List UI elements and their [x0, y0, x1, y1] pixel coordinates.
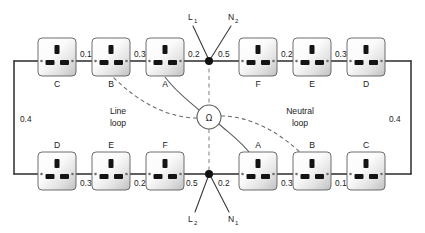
socket-label-top-F: F [255, 79, 260, 89]
diagram-canvas: Ω C B A [0, 0, 425, 233]
socket-bottom-D[interactable]: D [38, 140, 76, 190]
socket-top-F[interactable]: F [239, 38, 277, 89]
resistance-label-top-ED: 0.3 [335, 49, 347, 59]
terminal-label-L1: L 1 [188, 12, 198, 24]
socket-bottom-B[interactable]: B [293, 140, 331, 190]
resistance-label-bottom-BC: 0.1 [335, 178, 347, 188]
neutral-loop-label-row1: Neutral [286, 106, 314, 116]
terminal-L1-sub: 1 [194, 18, 198, 24]
socket-bottom-E[interactable]: E [92, 140, 130, 190]
junction-node-top [205, 57, 213, 65]
junction-node-bottom [205, 170, 213, 178]
socket-label-bottom-E: E [108, 140, 114, 150]
socket-label-bottom-B: B [309, 140, 315, 150]
resistance-label-bottom-AB: 0.3 [281, 178, 293, 188]
socket-label-bottom-C: C [363, 140, 369, 150]
socket-bottom-C[interactable]: C [347, 140, 385, 190]
socket-label-top-D: D [363, 79, 369, 89]
socket-label-top-E: E [309, 79, 315, 89]
resistance-label-bottom-F-node: 0.5 [186, 178, 198, 188]
terminal-label-N2: N 2 [228, 12, 239, 24]
socket-label-top-B: B [108, 79, 114, 89]
line-loop-label-row1: Line [110, 106, 126, 116]
resistance-label-bottom-DE: 0.3 [80, 178, 92, 188]
resistance-label-top-A-node: 0.2 [188, 49, 200, 59]
socket-label-top-A: A [162, 79, 168, 89]
socket-label-bottom-D: D [54, 140, 60, 150]
terminal-label-L2: L 2 [188, 214, 198, 226]
socket-top-D[interactable]: D [347, 38, 385, 89]
socket-top-B[interactable]: B [92, 38, 130, 89]
omega-earth-node: Ω [197, 105, 221, 129]
terminal-N1-sub: 1 [235, 220, 239, 226]
resistance-label-right: 0.4 [389, 114, 401, 124]
terminal-L2-sub: 2 [194, 220, 198, 226]
terminal-N2-base: N [228, 12, 234, 22]
terminal-N1-base: N [228, 214, 234, 224]
terminal-L2-base: L [188, 214, 193, 224]
resistance-label-left: 0.4 [20, 114, 32, 124]
socket-top-A[interactable]: A [146, 38, 184, 89]
line-loop-label-row2: loop [110, 118, 126, 128]
resistance-label-top-FE: 0.2 [281, 49, 293, 59]
resistance-label-bottom-node-A: 0.2 [218, 178, 230, 188]
socket-label-top-C: C [54, 79, 60, 89]
terminal-N2-sub: 2 [235, 18, 239, 24]
socket-top-C[interactable]: C [38, 38, 76, 89]
loop-label-line: Line loop [110, 106, 126, 128]
socket-bottom-F[interactable]: F [146, 140, 184, 190]
loop-label-neutral: Neutral loop [286, 106, 314, 128]
resistance-label-top-BA: 0.3 [134, 49, 146, 59]
neutral-loop-label-row2: loop [292, 118, 308, 128]
socket-label-bottom-F: F [162, 140, 167, 150]
socket-top-E[interactable]: E [293, 38, 331, 89]
omega-symbol-label: Ω [206, 113, 213, 123]
resistance-label-top-node-F: 0.5 [218, 49, 230, 59]
curve-omega-to-top-A [165, 77, 199, 110]
resistance-label-top-CB: 0.1 [80, 49, 92, 59]
terminal-label-N1: N 1 [228, 214, 239, 226]
resistance-label-bottom-EF: 0.2 [134, 178, 146, 188]
socket-label-bottom-A: A [255, 140, 261, 150]
terminal-L1-base: L [188, 12, 193, 22]
